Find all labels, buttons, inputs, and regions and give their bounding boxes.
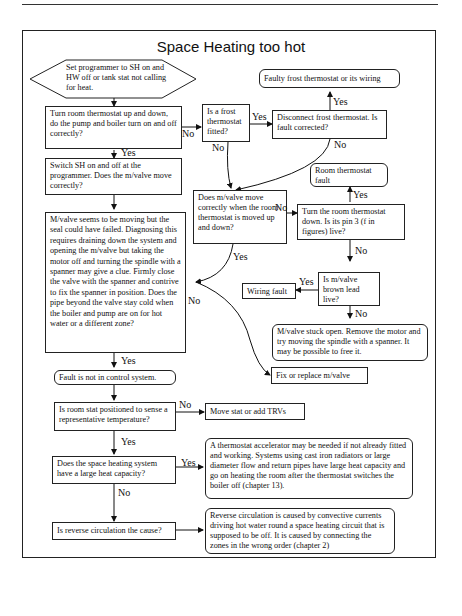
label-no: No — [118, 488, 130, 498]
node-turn-room-stat: Turn room thermostat up and down, do the… — [45, 106, 182, 149]
label-no: No — [275, 203, 287, 213]
label-no: No — [355, 309, 367, 319]
node-reverse-circ-question: Is reverse circulation the cause? — [52, 522, 176, 540]
node-large-capacity: Does the space heating system have a lar… — [52, 456, 176, 484]
label-yes: Yes — [233, 252, 248, 262]
node-faulty-frost: Faulty frost thermostat or its wiring — [259, 69, 400, 88]
node-brown-lead: Is m/valve brown lead live? — [318, 272, 380, 306]
node-frost-fitted: Is a frost thermostat fitted? — [202, 104, 250, 142]
label-no: No — [355, 246, 367, 256]
label-no: No — [179, 400, 191, 410]
node-switch-sh: Switch SH on and off at the programmer. … — [45, 158, 182, 195]
node-wiring-fault: Wiring fault — [242, 283, 296, 299]
node-mvalve-move-room: Does m/valve move correctly when the roo… — [193, 190, 287, 244]
start-node: Set programmer to SH on and HW off or ta… — [66, 63, 176, 93]
node-room-stat-position: Is room stat positioned to sense a repre… — [54, 402, 176, 431]
node-not-control: Fault is not in control system. — [54, 370, 176, 385]
node-disconnect-frost: Disconnect frost thermostat. Is fault co… — [272, 110, 387, 139]
label-no: No — [212, 143, 224, 153]
label-yes: Yes — [121, 356, 136, 366]
label-yes: Yes — [252, 112, 267, 122]
label-yes: Yes — [121, 437, 136, 447]
node-turn-room-down: Turn the room thermostat down. Is its pi… — [297, 204, 405, 240]
label-yes: Yes — [333, 97, 348, 107]
node-fix-replace: Fix or replace m/valve — [271, 367, 368, 384]
label-no: No — [334, 140, 346, 150]
node-accelerator: A thermostat accelerator may be needed i… — [205, 438, 413, 499]
label-yes: Yes — [181, 458, 196, 468]
node-seal-failed: M/valve seems to be moving but the seal … — [45, 212, 186, 353]
node-room-stat-fault: Room thermostat fault — [310, 163, 388, 187]
node-reverse-circ-info: Reverse circulation is caused by convect… — [205, 508, 395, 554]
label-yes: Yes — [353, 190, 368, 200]
node-move-stat: Move stat or add TRVs — [205, 403, 305, 420]
label-no: No — [188, 296, 200, 306]
node-stuck-open: M/valve stuck open. Remove the motor and… — [272, 324, 428, 361]
label-yes: Yes — [121, 148, 136, 158]
label-yes: Yes — [299, 277, 314, 287]
label-no: No — [182, 129, 194, 139]
